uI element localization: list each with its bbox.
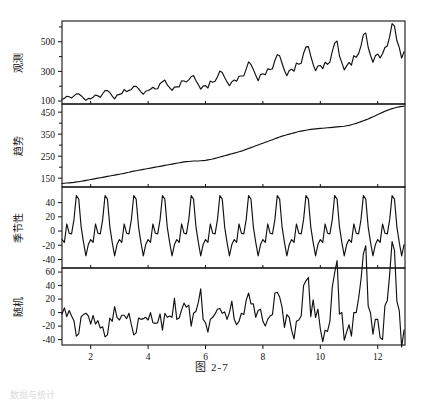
panel-observed: 100300500观测 xyxy=(12,21,405,106)
panel-random: 6040200-20-40随机24681012 xyxy=(12,242,405,362)
y-tick-label-random: -20 xyxy=(42,321,55,331)
figure-container: 100300500观测150250350450趋势40200-20-40季节性6… xyxy=(0,0,424,400)
y-tick-label-random: 20 xyxy=(46,294,56,304)
panel-seasonal: 40200-20-40季节性 xyxy=(12,187,405,268)
axis-title-seasonal: 季节性 xyxy=(12,213,24,243)
axis-title-observed: 观测 xyxy=(12,53,24,73)
axis-title-trend: 趋势 xyxy=(12,136,24,156)
y-tick-label-seasonal: 20 xyxy=(46,212,56,222)
y-tick-label-trend: 250 xyxy=(41,152,56,162)
y-tick-label-random: -40 xyxy=(42,335,55,345)
series-line-random xyxy=(62,242,404,347)
y-tick-label-trend: 150 xyxy=(41,174,56,184)
y-tick-label-seasonal: 40 xyxy=(46,198,56,208)
y-tick-label-seasonal: 0 xyxy=(50,226,55,236)
series-line-observed xyxy=(62,24,404,101)
decomposition-svg: 100300500观测150250350450趋势40200-20-40季节性6… xyxy=(0,0,424,400)
y-tick-label-random: 40 xyxy=(46,281,56,291)
y-tick-label-observed: 300 xyxy=(41,67,56,77)
y-tick-label-seasonal: -20 xyxy=(42,241,55,251)
y-tick-label-seasonal: -40 xyxy=(42,255,55,265)
series-line-trend xyxy=(62,106,404,183)
panel-frame-random xyxy=(62,268,405,345)
y-tick-label-observed: 100 xyxy=(41,96,56,106)
panel-frame-observed xyxy=(62,21,405,104)
footer-faint-text: 数据与统计 xyxy=(10,388,55,400)
figure-caption: 图 2-7 xyxy=(0,358,424,374)
panel-frame-trend xyxy=(62,104,405,187)
y-tick-label-random: 60 xyxy=(46,267,56,277)
panel-trend: 150250350450趋势 xyxy=(12,104,405,187)
series-line-seasonal xyxy=(62,196,404,256)
y-tick-label-trend: 350 xyxy=(41,130,56,140)
y-tick-label-observed: 500 xyxy=(41,37,56,47)
axis-title-random: 随机 xyxy=(12,297,24,317)
y-tick-label-random: 0 xyxy=(50,308,55,318)
y-tick-label-trend: 450 xyxy=(41,108,56,118)
decomposition-plot: 100300500观测150250350450趋势40200-20-40季节性6… xyxy=(0,0,424,400)
